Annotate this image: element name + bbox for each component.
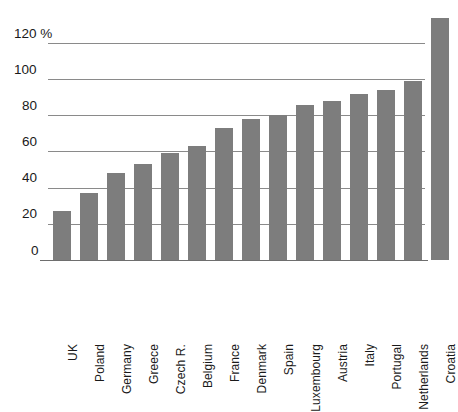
x-axis-labels: UK Poland Germany Greece Czech R. Belgiu…	[48, 262, 443, 346]
x-label-uk: UK	[67, 344, 79, 361]
y-tick-label-20: 20	[22, 207, 37, 221]
x-label-italy: Italy	[364, 344, 376, 367]
y-tick-label-60: 60	[22, 135, 37, 149]
x-label-greece: Greece	[148, 344, 160, 384]
bar-denmark	[242, 119, 260, 260]
x-label-denmark: Denmark	[256, 344, 268, 393]
x-label-czech-r: Czech R.	[175, 344, 187, 394]
y-tick-label-100: 100	[14, 63, 37, 77]
y-tick-label-120: 120 %	[14, 27, 52, 41]
x-label-belgium: Belgium	[202, 344, 214, 388]
bar-uk	[53, 211, 71, 260]
bar-poland	[80, 193, 98, 260]
y-tick-label-80: 80	[22, 99, 37, 113]
x-label-poland: Poland	[94, 344, 106, 382]
bar-luxembourg	[296, 105, 314, 261]
x-label-france: France	[229, 344, 241, 382]
x-label-germany: Germany	[121, 344, 133, 394]
bar-france	[215, 128, 233, 260]
x-label-netherlands: Netherlands	[418, 344, 430, 410]
x-label-spain: Spain	[283, 344, 295, 375]
x-label-luxembourg: Luxembourg	[310, 344, 322, 412]
bar-germany	[107, 173, 125, 260]
bar-greece	[134, 164, 152, 260]
bar-netherlands	[404, 81, 422, 260]
x-label-croatia: Croatia	[445, 344, 457, 383]
bar-portugal	[377, 90, 395, 260]
y-tick-label-0: 0	[31, 244, 39, 258]
x-label-portugal: Portugal	[391, 344, 403, 390]
y-axis-labels: 120 % 100 80 60 40 20 0	[0, 0, 48, 346]
bar-czech-r	[161, 153, 179, 260]
bar-spain	[269, 115, 287, 260]
x-label-austria: Austria	[337, 344, 349, 382]
bar-italy	[350, 94, 368, 260]
bar-belgium	[188, 146, 206, 260]
bar-austria	[323, 101, 341, 260]
y-tick-label-40: 40	[22, 171, 37, 185]
bar-croatia	[431, 18, 449, 260]
